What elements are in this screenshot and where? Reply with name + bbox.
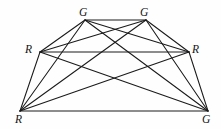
edge-top-right-g-to-bottom-right-g: [146, 20, 208, 111]
edge-top-left-g-to-bottom-left-r: [20, 20, 85, 111]
edge-mid-right-r-to-bottom-left-r: [20, 52, 189, 111]
edge-top-right-g-to-mid-left-r: [40, 20, 146, 52]
graph-figure: GGRRRG: [0, 0, 221, 129]
vertex-mid-left-r-label: R: [25, 44, 32, 56]
edge-top-right-g-to-mid-right-r: [146, 20, 189, 52]
edge-top-left-g-to-mid-right-r: [85, 20, 189, 52]
graph-canvas: [0, 0, 221, 129]
edge-layer: [20, 20, 208, 111]
edge-top-left-g-to-bottom-right-g: [85, 20, 208, 111]
edge-mid-left-r-to-bottom-left-r: [20, 52, 40, 111]
edge-top-right-g-to-bottom-left-r: [20, 20, 146, 111]
edge-mid-left-r-to-bottom-right-g: [40, 52, 208, 111]
vertex-top-right-g-label: G: [140, 7, 148, 19]
vertex-bottom-right-g-label: G: [202, 114, 210, 126]
vertex-bottom-left-r-label: R: [15, 114, 22, 126]
vertex-mid-right-r-label: R: [192, 44, 199, 56]
vertex-top-left-g-label: G: [79, 7, 87, 19]
edge-mid-right-r-to-bottom-right-g: [189, 52, 208, 111]
edge-top-left-g-to-mid-left-r: [40, 20, 85, 52]
